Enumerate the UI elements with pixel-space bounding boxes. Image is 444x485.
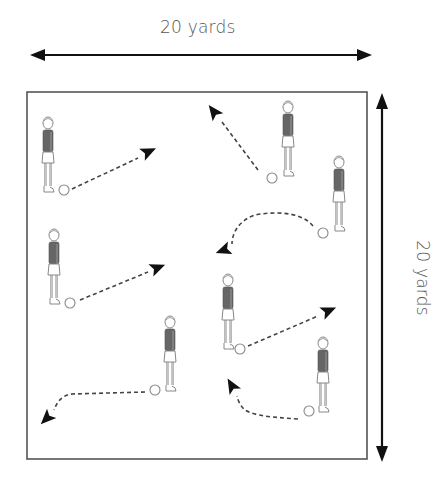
arrowhead-icon bbox=[148, 259, 167, 277]
arrowhead-icon bbox=[36, 409, 56, 429]
player-shorts bbox=[333, 191, 345, 202]
arrowhead-icon bbox=[222, 375, 241, 395]
pass-arrow bbox=[203, 101, 258, 170]
dashed-pass-line bbox=[248, 316, 318, 346]
ball-icon bbox=[150, 385, 160, 395]
pass-arrow bbox=[213, 213, 313, 259]
arrowhead-icon bbox=[213, 242, 232, 260]
arrowhead-icon bbox=[139, 142, 159, 160]
ball-icon bbox=[318, 228, 328, 238]
player-figure bbox=[222, 274, 245, 354]
height-dimension-label: 20 yards bbox=[413, 240, 433, 315]
ball-icon bbox=[235, 344, 245, 354]
player-figure bbox=[150, 316, 176, 395]
ball-icon bbox=[304, 406, 314, 416]
arrowhead-left-icon bbox=[30, 49, 45, 61]
dashed-pass-line bbox=[237, 396, 298, 419]
player-shorts bbox=[282, 136, 294, 147]
player-figure bbox=[42, 117, 69, 195]
arrowhead-down-icon bbox=[376, 446, 388, 462]
dimension-arrows bbox=[30, 49, 388, 462]
player-figure bbox=[48, 229, 75, 308]
drill-diagram: 20 yards 20 yards bbox=[0, 0, 444, 485]
players bbox=[42, 101, 345, 416]
pass-arrow bbox=[36, 392, 145, 429]
width-dimension-label: 20 yards bbox=[160, 17, 235, 37]
player-figure bbox=[267, 101, 294, 183]
player-figure bbox=[304, 337, 329, 416]
player-shorts bbox=[48, 264, 60, 275]
dashed-pass-line bbox=[222, 122, 258, 170]
dashed-pass-line bbox=[80, 272, 148, 300]
arrowhead-up-icon bbox=[376, 93, 388, 109]
pass-arrows bbox=[36, 101, 339, 429]
arrowhead-right-icon bbox=[357, 49, 372, 61]
player-shorts bbox=[222, 309, 234, 320]
arrowhead-icon bbox=[319, 301, 338, 319]
field-boundary bbox=[27, 92, 367, 459]
dashed-pass-line bbox=[54, 392, 145, 410]
diagram-canvas bbox=[0, 0, 444, 485]
player-shorts bbox=[317, 372, 329, 383]
arrowhead-icon bbox=[203, 101, 223, 121]
ball-icon bbox=[59, 185, 69, 195]
player-shorts bbox=[164, 351, 176, 362]
dashed-pass-line bbox=[232, 213, 313, 244]
pass-arrow bbox=[72, 142, 159, 189]
dashed-pass-line bbox=[72, 158, 138, 189]
ball-icon bbox=[267, 173, 277, 183]
player-shorts bbox=[42, 152, 54, 163]
ball-icon bbox=[65, 298, 75, 308]
pass-arrow bbox=[80, 259, 168, 300]
pass-arrow bbox=[222, 375, 298, 419]
player-figure bbox=[318, 156, 345, 238]
